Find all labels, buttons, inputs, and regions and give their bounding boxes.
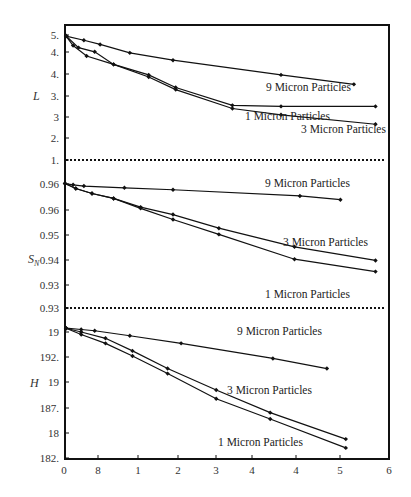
data-marker — [82, 184, 86, 188]
data-marker — [171, 58, 175, 62]
data-marker — [279, 104, 283, 108]
series-line — [66, 36, 375, 106]
x-tick-label: 0 — [61, 464, 67, 476]
data-marker — [279, 73, 283, 77]
data-marker — [171, 212, 175, 216]
y-tick-label: 2. — [51, 132, 60, 144]
y-tick-label: 0.95 — [40, 229, 60, 241]
data-marker — [171, 217, 175, 221]
data-marker — [373, 269, 377, 273]
data-marker — [338, 197, 342, 201]
series-label: 3 Micron Particles — [227, 384, 312, 396]
y-tick-label: 1. — [51, 154, 60, 166]
ylabel-H: H — [29, 376, 40, 390]
data-marker — [98, 42, 102, 46]
data-marker — [103, 336, 107, 340]
x-tick-label: 4 — [249, 464, 255, 476]
data-marker — [217, 232, 221, 236]
y-tick-label: 0.96 — [40, 178, 60, 190]
data-marker — [179, 341, 183, 345]
y-tick-label: 0.94 — [40, 254, 60, 266]
data-marker — [165, 371, 169, 375]
data-marker — [93, 329, 97, 333]
y-tick-label: 182. — [40, 452, 60, 464]
y-tick-label: 5. — [51, 29, 60, 41]
series-line — [66, 36, 354, 84]
ylabel-SN: SN — [28, 252, 40, 268]
y-tick-label: 3. — [51, 90, 60, 102]
data-marker — [214, 388, 218, 392]
data-marker — [214, 397, 218, 401]
series-label: 9 Micron Particles — [265, 177, 350, 189]
x-tick-label: 2 — [175, 464, 181, 476]
x-tick-label: 1 — [135, 464, 141, 476]
data-marker — [82, 38, 86, 42]
series-label: 9 Micron Particles — [266, 81, 351, 93]
data-marker — [111, 196, 115, 200]
y-tick-label: 192. — [40, 351, 60, 363]
data-marker — [128, 334, 132, 338]
y-tick-label: 4. — [51, 46, 60, 58]
data-marker — [344, 437, 348, 441]
y-tick-label: 0.96 — [40, 204, 60, 216]
data-marker — [230, 106, 234, 110]
x-tick-label: 3 — [213, 464, 219, 476]
data-marker — [165, 366, 169, 370]
y-tick-label: 18 — [48, 427, 60, 439]
series-label: 1 Micron Particles — [265, 288, 350, 300]
y-tick-label: 19 — [48, 376, 60, 388]
data-marker — [271, 356, 275, 360]
data-marker — [268, 417, 272, 421]
series-label: 3 Micron Particles — [301, 123, 386, 135]
data-marker — [130, 354, 134, 358]
series-labels: 9 Micron Particles1 Micron Particles3 Mi… — [218, 81, 386, 448]
data-marker — [63, 181, 67, 185]
data-marker — [217, 226, 221, 230]
data-marker — [352, 82, 356, 86]
data-marker — [344, 446, 348, 450]
series-label: 1 Micron Particles — [245, 110, 330, 122]
data-marker — [268, 410, 272, 414]
y-tick-label: 187. — [40, 402, 60, 414]
y-tick-label: 0.93 — [40, 279, 60, 291]
x-tick-label: 4 — [293, 464, 299, 476]
y-tick-label: 19 — [48, 326, 60, 338]
data-marker — [122, 186, 126, 190]
data-marker — [90, 191, 94, 195]
data-marker — [292, 257, 296, 261]
y-tick-label: 0.93 — [40, 302, 60, 314]
series-line — [65, 184, 376, 261]
x-tick-label: 5 — [337, 464, 343, 476]
data-marker — [373, 258, 377, 262]
data-marker — [103, 341, 107, 345]
chart: 5.4.4.3.32.1.0.960.960.950.940.930.93191… — [0, 0, 411, 497]
data-marker — [373, 104, 377, 108]
data-marker — [130, 349, 134, 353]
series-label: 1 Micron Particles — [218, 436, 303, 448]
data-marker — [171, 188, 175, 192]
x-tick-label: 6 — [386, 464, 392, 476]
data-marker — [298, 194, 302, 198]
y-tick-label: 3 — [54, 111, 60, 123]
y-axis-titles: L SN H — [28, 89, 40, 390]
data-marker — [128, 51, 132, 55]
data-marker — [74, 186, 78, 190]
data-marker — [325, 366, 329, 370]
y-tick-label: 4. — [51, 68, 60, 80]
x-tick-label: 8 — [95, 464, 101, 476]
ylabel-L: L — [32, 89, 40, 103]
series-label: 9 Micron Particles — [237, 325, 322, 337]
series-label: 3 Micron Particles — [283, 236, 368, 248]
